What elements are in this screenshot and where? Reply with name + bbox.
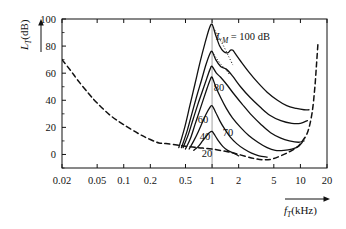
x-tick-label: 0.2 (144, 175, 157, 186)
x-tick-label: 10 (295, 175, 306, 186)
chart-canvas: 0.020.050.10.20.51251020 020406080100 LM… (0, 0, 346, 229)
chart-series-group (62, 24, 318, 160)
y-tick-label: 80 (46, 41, 57, 52)
y-axis-ticks (62, 19, 66, 168)
x-tick-label: 0.02 (53, 175, 71, 186)
y-axis-label-var: L (18, 44, 30, 51)
curve-label-40: 40 (200, 131, 211, 142)
x-axis-arrow-head (324, 196, 331, 202)
x-tick-label: 5 (271, 175, 276, 186)
x-tick-label: 0.5 (179, 175, 192, 186)
x-axis-label-unit: (kHz) (291, 204, 317, 217)
y-axis-label-unit: (dB) (18, 19, 31, 40)
x-tick-label: 20 (322, 175, 333, 186)
x-tick-label: 0.05 (88, 175, 106, 186)
x-axis-ticks (62, 19, 327, 168)
y-tick-label: 40 (46, 95, 57, 106)
y-axis-tick-labels: 020406080100 (40, 14, 56, 160)
curve-label-70: 70 (223, 127, 234, 138)
y-tick-label: 0 (51, 149, 56, 160)
plot-frame (62, 19, 327, 168)
x-axis-tick-labels: 0.020.050.10.20.51251020 (53, 175, 332, 186)
lm-100-label: LM = 100 dB (215, 31, 270, 45)
x-tick-label: 0.1 (117, 175, 130, 186)
series-masking-curve-100dB (179, 24, 309, 148)
x-axis-label-group: fT(kHz) (284, 196, 330, 218)
curve-label-80: 80 (214, 82, 225, 93)
x-tick-label: 1 (209, 175, 214, 186)
x-tick-label: 2 (236, 175, 241, 186)
x-axis-label: fT(kHz) (284, 204, 317, 219)
y-axis-label-group: LT(dB) (18, 19, 44, 52)
y-axis-label: LT(dB) (18, 19, 33, 51)
curve-annotations-group: LM = 100 dB8070604020 (198, 31, 270, 159)
curve-label-20: 20 (202, 148, 213, 159)
curve-label-60: 60 (198, 114, 209, 125)
y-tick-label: 60 (46, 68, 57, 79)
figure-container: 0.020.050.10.20.51251020 020406080100 LM… (0, 0, 346, 229)
y-tick-label: 20 (46, 122, 57, 133)
